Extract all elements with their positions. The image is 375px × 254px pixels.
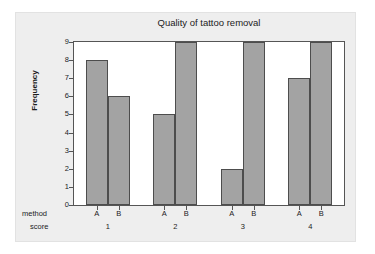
x-axis-tick (186, 206, 187, 210)
y-axis-tick-label: 3 (55, 147, 69, 155)
plot-area (74, 42, 344, 205)
x-axis-method-label: B (247, 209, 261, 218)
chart-title: Quality of tattoo removal (73, 17, 345, 28)
y-axis-tick-label: 5 (55, 110, 69, 118)
y-axis-tick-labels: 0123456789 (55, 0, 69, 254)
x-axis-method-label: A (90, 209, 104, 218)
bar-score-4-method-A (288, 78, 310, 205)
x-axis-tick (164, 206, 165, 210)
y-axis-tick-label: 8 (55, 56, 69, 64)
x-axis-score-label: 2 (163, 222, 187, 231)
y-axis-tick (69, 205, 73, 206)
x-axis-score-label: 4 (298, 222, 322, 231)
x-axis-tick (321, 206, 322, 210)
x-axis-method-label: B (314, 209, 328, 218)
bar-score-3-method-B (243, 42, 265, 205)
x-axis-tick (254, 206, 255, 210)
y-axis-tick-label: 0 (55, 201, 69, 209)
x-axis-tick (119, 206, 120, 210)
bar-score-1-method-B (108, 96, 130, 205)
x-axis-row-header-method: method (22, 209, 47, 218)
bar-score-1-method-A (86, 60, 108, 205)
y-axis-tick-label: 2 (55, 165, 69, 173)
y-axis-tick (69, 169, 73, 170)
x-axis-method-label: B (112, 209, 126, 218)
y-axis-tick (69, 78, 73, 79)
y-axis-tick (69, 60, 73, 61)
y-axis-tick (69, 114, 73, 115)
y-axis-tick-label: 1 (55, 183, 69, 191)
bar-score-2-method-A (153, 114, 175, 205)
y-axis-tick (69, 133, 73, 134)
y-axis-tick-label: 9 (55, 38, 69, 46)
bar-score-2-method-B (175, 42, 197, 205)
y-axis-tick-label: 7 (55, 74, 69, 82)
x-axis-score-label: 1 (96, 222, 120, 231)
x-axis-method-label: B (179, 209, 193, 218)
x-axis-method-label: A (225, 209, 239, 218)
y-axis-tick (69, 96, 73, 97)
y-axis-tick (69, 42, 73, 43)
y-axis-title: Frequency (30, 51, 39, 131)
x-axis-method-label: A (157, 209, 171, 218)
bar-score-3-method-A (221, 169, 243, 205)
x-axis-score-label: 3 (231, 222, 255, 231)
chart-figure: Quality of tattoo removal Frequency 0123… (0, 0, 375, 254)
y-axis-tick (69, 151, 73, 152)
y-axis-tick (69, 187, 73, 188)
y-axis-tick-label: 6 (55, 92, 69, 100)
x-axis-tick (232, 206, 233, 210)
x-axis-method-label: A (292, 209, 306, 218)
x-axis-row-header-score: score (30, 222, 48, 231)
y-axis-tick-label: 4 (55, 129, 69, 137)
bar-score-4-method-B (310, 42, 332, 205)
x-axis-tick (299, 206, 300, 210)
x-axis-tick (97, 206, 98, 210)
